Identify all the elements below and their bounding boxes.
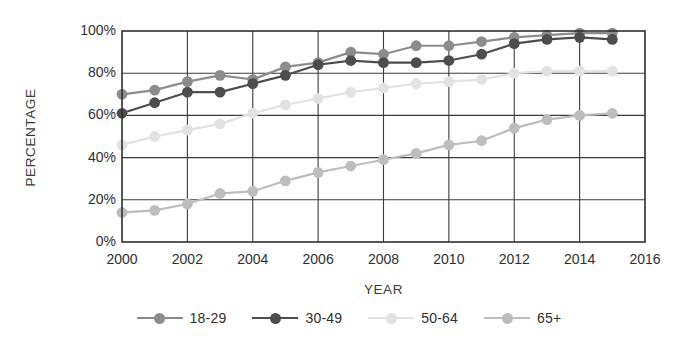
legend-item-18-29[interactable]: 18-29: [137, 310, 227, 326]
legend-label: 18-29: [190, 310, 227, 326]
x-tick-label: 2002: [157, 252, 217, 266]
x-tick-label: 2000: [92, 252, 152, 266]
series-30-49: [117, 32, 618, 119]
data-point: [542, 66, 553, 77]
data-point: [411, 57, 422, 68]
data-point: [182, 76, 193, 87]
legend-item-30-49[interactable]: 30-49: [252, 310, 342, 326]
x-tick-label: 2016: [615, 252, 675, 266]
series-line: [122, 33, 612, 94]
series-line: [122, 71, 612, 145]
data-point: [476, 49, 487, 60]
data-point: [182, 199, 193, 210]
data-point: [509, 123, 520, 134]
data-point: [476, 74, 487, 85]
data-point: [411, 148, 422, 159]
legend-item-65+[interactable]: 65+: [484, 310, 561, 326]
data-point: [378, 83, 389, 94]
x-tick-label: 2004: [223, 252, 283, 266]
data-point: [509, 38, 520, 49]
x-axis-title: YEAR: [122, 282, 645, 297]
x-tick-label: 2014: [550, 252, 610, 266]
legend-marker-icon: [484, 312, 530, 324]
line-chart: PERCENTAGE 0%20%40%60%80%100% 2000200220…: [0, 0, 698, 352]
data-point: [574, 110, 585, 121]
data-point: [345, 87, 356, 98]
data-point: [476, 135, 487, 146]
data-point: [247, 186, 258, 197]
data-point: [509, 68, 520, 79]
legend-item-50-64[interactable]: 50-64: [368, 310, 458, 326]
data-point: [215, 188, 226, 199]
legend-dot-icon: [154, 313, 165, 324]
data-point: [182, 125, 193, 136]
data-point: [149, 97, 160, 108]
data-point: [313, 167, 324, 178]
legend-marker-icon: [252, 312, 298, 324]
series-50-64: [117, 66, 618, 151]
x-tick-label: 2010: [419, 252, 479, 266]
data-point: [345, 55, 356, 66]
data-point: [149, 85, 160, 96]
data-point: [215, 118, 226, 129]
series-65+: [117, 108, 618, 218]
data-point: [411, 40, 422, 51]
data-point: [247, 108, 258, 119]
data-point: [313, 59, 324, 70]
data-point: [476, 36, 487, 47]
legend-dot-icon: [270, 313, 281, 324]
data-point: [378, 57, 389, 68]
data-point: [182, 87, 193, 98]
data-point: [280, 70, 291, 81]
data-point: [149, 131, 160, 142]
legend-marker-icon: [137, 312, 183, 324]
data-point: [542, 114, 553, 125]
data-point: [215, 87, 226, 98]
x-tick-label: 2012: [484, 252, 544, 266]
data-point: [280, 99, 291, 110]
data-point: [574, 66, 585, 77]
data-point: [443, 40, 454, 51]
data-point: [378, 154, 389, 165]
series-layer: [117, 28, 618, 218]
legend-dot-icon: [502, 313, 513, 324]
data-point: [607, 108, 618, 119]
plot-area: [0, 0, 698, 352]
data-point: [443, 140, 454, 151]
legend-label: 30-49: [305, 310, 342, 326]
data-point: [411, 78, 422, 89]
data-point: [149, 205, 160, 216]
chart-legend: 18-2930-4950-6465+: [0, 310, 698, 326]
x-tick-label: 2008: [354, 252, 414, 266]
legend-label: 50-64: [421, 310, 458, 326]
data-point: [443, 76, 454, 87]
data-point: [280, 175, 291, 186]
data-point: [574, 32, 585, 43]
data-point: [215, 70, 226, 81]
data-point: [247, 78, 258, 89]
data-point: [345, 161, 356, 172]
legend-dot-icon: [386, 313, 397, 324]
data-point: [542, 34, 553, 45]
series-line: [122, 37, 612, 113]
data-point: [607, 34, 618, 45]
data-point: [313, 93, 324, 104]
x-tick-label: 2006: [288, 252, 348, 266]
legend-label: 65+: [537, 310, 561, 326]
legend-marker-icon: [368, 312, 414, 324]
data-point: [607, 66, 618, 77]
data-point: [443, 55, 454, 66]
